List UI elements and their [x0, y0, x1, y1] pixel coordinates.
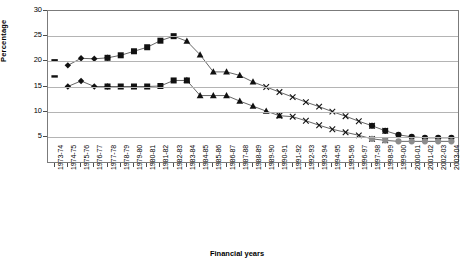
x-tick-mark — [331, 163, 332, 167]
x-tick-label: 1985-86 — [215, 145, 222, 170]
marker-cross — [303, 118, 309, 124]
x-tick-mark — [411, 163, 412, 167]
marker-circle — [382, 128, 388, 134]
x-tick-mark — [173, 163, 174, 167]
x-tick-mark — [345, 163, 346, 167]
x-tick-label: 1977-78 — [110, 145, 117, 170]
y-axis-title: Percentage — [0, 20, 8, 62]
x-tick-mark — [358, 163, 359, 167]
x-tick-label: 1987-88 — [242, 145, 249, 170]
marker-cross — [316, 104, 322, 110]
x-tick-label: 2000-01 — [414, 145, 421, 170]
plot-area — [47, 10, 459, 163]
x-tick-label: 1980-81 — [149, 145, 156, 170]
marker-square — [118, 52, 124, 58]
x-tick-label: 1993-94 — [321, 145, 328, 170]
marker-cross — [356, 118, 362, 124]
x-tick-label: 2003-04 — [453, 145, 460, 170]
x-tick-mark — [120, 163, 121, 167]
x-tick-mark — [80, 163, 81, 167]
x-tick-mark — [318, 163, 319, 167]
marker-square — [131, 48, 137, 54]
x-tick-label: 1998-99 — [387, 145, 394, 170]
marker-triangle — [250, 78, 257, 84]
x-tick-label: 1991-92 — [295, 145, 302, 170]
x-tick-label: 1997-98 — [374, 145, 381, 170]
x-axis-title: Financial years — [0, 249, 474, 258]
x-tick-label: 1999-00 — [400, 145, 407, 170]
marker-diamond — [78, 78, 84, 84]
x-tick-label: 1978-79 — [123, 145, 130, 170]
x-tick-mark — [265, 163, 266, 167]
marker-diamond — [65, 62, 71, 68]
gridline — [48, 112, 458, 113]
x-tick-mark — [384, 163, 385, 167]
x-tick-mark — [93, 163, 94, 167]
gridline — [48, 36, 458, 37]
x-tick-mark — [292, 163, 293, 167]
marker-dash — [51, 75, 57, 77]
y-tick-label: 10 — [22, 107, 42, 115]
x-tick-label: 2002-03 — [440, 145, 447, 170]
marker-circle — [409, 138, 415, 144]
x-tick-label: 1975-76 — [83, 145, 90, 170]
x-tick-mark — [397, 163, 398, 167]
y-tick-mark — [43, 35, 47, 36]
x-tick-mark — [146, 163, 147, 167]
x-tick-label: 1990-91 — [281, 145, 288, 170]
x-tick-mark — [54, 163, 55, 167]
y-tick-label: 30 — [22, 6, 42, 14]
x-tick-mark — [278, 163, 279, 167]
y-tick-label: 20 — [22, 56, 42, 64]
x-tick-label: 1984-85 — [202, 145, 209, 170]
marker-triangle — [223, 92, 230, 98]
x-tick-mark — [212, 163, 213, 167]
x-tick-label: 1996-97 — [361, 145, 368, 170]
x-tick-label: 1992-93 — [308, 145, 315, 170]
y-tick-mark — [43, 136, 47, 137]
marker-square — [171, 77, 177, 83]
marker-circle — [369, 123, 375, 129]
y-tick-mark — [43, 86, 47, 87]
y-tick-mark — [43, 111, 47, 112]
y-tick-mark — [43, 60, 47, 61]
marker-cross — [303, 99, 309, 105]
x-tick-mark — [371, 163, 372, 167]
x-tick-mark — [305, 163, 306, 167]
x-tick-label: 1981-82 — [162, 145, 169, 170]
x-tick-label: 1974-75 — [70, 145, 77, 170]
marker-cross — [290, 94, 296, 100]
x-tick-mark — [239, 163, 240, 167]
marker-triangle — [236, 97, 243, 103]
marker-circle — [395, 138, 401, 144]
x-tick-mark — [199, 163, 200, 167]
x-tick-label: 1994-95 — [334, 145, 341, 170]
x-tick-label: 1995-96 — [348, 145, 355, 170]
y-tick-label: 5 — [22, 132, 42, 140]
x-tick-mark — [186, 163, 187, 167]
x-tick-label: 2001-02 — [427, 145, 434, 170]
marker-cross — [343, 113, 349, 119]
marker-circle — [382, 137, 388, 143]
x-tick-mark — [424, 163, 425, 167]
x-tick-label: 1989-90 — [268, 145, 275, 170]
marker-triangle — [223, 68, 230, 74]
x-tick-mark — [252, 163, 253, 167]
x-tick-label: 1973-74 — [57, 145, 64, 170]
x-tick-label: 1983-84 — [189, 145, 196, 170]
y-tick-label: 25 — [22, 31, 42, 39]
gridline — [48, 137, 458, 138]
x-tick-mark — [67, 163, 68, 167]
x-tick-label: 1986-87 — [229, 145, 236, 170]
x-tick-mark — [133, 163, 134, 167]
marker-square — [157, 38, 163, 44]
x-tick-mark — [450, 163, 451, 167]
chart-container: Percentage 510152025301973-741974-751975… — [0, 0, 474, 266]
marker-circle — [448, 138, 454, 144]
y-tick-label: 15 — [22, 82, 42, 90]
x-tick-label: 1976-77 — [96, 145, 103, 170]
marker-triangle — [210, 92, 217, 98]
x-tick-mark — [159, 163, 160, 167]
marker-cross — [277, 89, 283, 95]
gridline — [48, 87, 458, 88]
